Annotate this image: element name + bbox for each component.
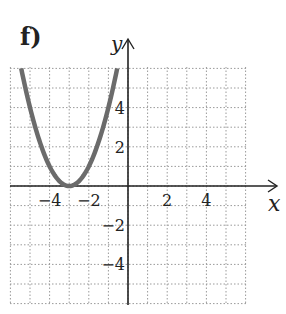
x-tick-label: −4 bbox=[38, 191, 62, 210]
y-axis-label: y bbox=[110, 32, 123, 56]
x-axis-label: x bbox=[268, 191, 281, 216]
y-tick-label: 2 bbox=[115, 138, 125, 157]
y-tick-label: −4 bbox=[101, 255, 125, 274]
y-tick-label: −2 bbox=[101, 216, 125, 235]
x-tick-label: 2 bbox=[162, 191, 172, 210]
graph: −4−22442−2−4 x y bbox=[0, 0, 286, 314]
x-tick-label: −2 bbox=[77, 191, 101, 210]
x-tick-label: 4 bbox=[201, 191, 211, 210]
y-tick-label: 4 bbox=[115, 99, 125, 118]
